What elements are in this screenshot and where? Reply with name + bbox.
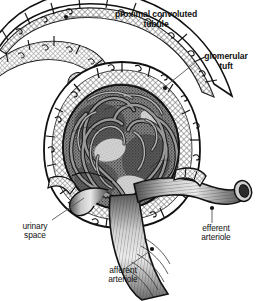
anchor-dot-glomerular-tuft [163,86,167,90]
label-proximal-convoluted-tubule: proximal convoluted tubule [104,10,208,29]
renal-corpuscle-figure: proximal convoluted tubule glomerular tu… [0,0,257,301]
anatomical-illustration [0,0,257,301]
label-efferent-arteriole: efferent arteriole [186,224,246,243]
leader-glomerular-tuft [166,62,196,86]
anchor-dot-afferent-arteriole [150,247,154,251]
label-urinary-space: urinary space [6,222,64,241]
anchor-dot-proximal-convoluted-tubule [64,15,68,19]
anchor-dot-efferent-arteriole [210,206,214,210]
label-afferent-arteriole: afferent arteriole [92,266,154,285]
label-glomerular-tuft: glomerular tuft [196,52,256,71]
